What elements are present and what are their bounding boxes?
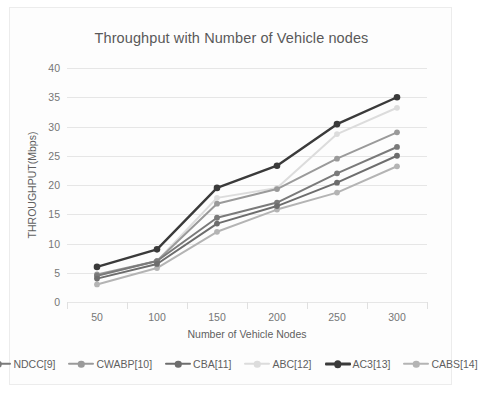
x-axis-tick-label: 100 — [148, 311, 166, 323]
legend-label: CBA[11] — [192, 358, 231, 370]
y-axis-title-label: THROUGHPUT(Mbps) — [26, 132, 38, 239]
data-point — [94, 264, 101, 271]
legend-label: NDCC[9] — [12, 358, 55, 370]
chart-title: Throughput with Number of Vehicle nodes — [10, 30, 453, 46]
data-point — [214, 215, 220, 221]
series-line — [97, 108, 397, 276]
series-lines — [67, 68, 427, 302]
legend-marker-icon — [325, 359, 351, 369]
series-cba11 — [94, 153, 400, 282]
chart-card: Throughput with Number of Vehicle nodes … — [9, 7, 452, 385]
data-point — [214, 229, 220, 235]
x-axis-tick-label: 300 — [388, 311, 406, 323]
y-axis-tick-label: 5 — [54, 267, 60, 279]
data-point — [334, 156, 340, 162]
x-axis-separator — [67, 302, 68, 309]
y-axis-tick-label: 15 — [48, 208, 60, 220]
x-axis-title: Number of Vehicle Nodes — [67, 328, 427, 340]
x-axis-separator — [307, 302, 308, 309]
legend-label: AC3[13] — [352, 358, 391, 370]
y-axis-tick-label: 0 — [54, 296, 60, 308]
data-point — [214, 221, 220, 227]
data-point — [214, 195, 220, 201]
x-axis-tick-label: 150 — [208, 311, 226, 323]
chart-legend: NDCC[9]CWABP[10]CBA[11]ABC[12]AC3[13]CAB… — [10, 358, 453, 370]
data-point — [154, 261, 160, 267]
series-ac313 — [94, 94, 401, 270]
data-point — [334, 180, 340, 186]
legend-item-ac313[interactable]: AC3[13] — [325, 358, 391, 370]
series-line — [97, 156, 397, 279]
y-axis-tick-label: 30 — [48, 121, 60, 133]
data-point — [334, 170, 340, 176]
data-point — [394, 105, 400, 111]
y-axis-tick-label: 20 — [48, 179, 60, 191]
data-point — [334, 131, 340, 137]
legend-marker-icon — [0, 359, 11, 369]
data-point — [214, 201, 220, 207]
legend-label: CWABP[10] — [95, 358, 152, 370]
data-point — [394, 144, 400, 150]
data-point — [214, 185, 221, 192]
data-point — [94, 282, 100, 288]
data-point — [394, 94, 401, 101]
data-point — [394, 163, 400, 169]
data-point — [334, 190, 340, 196]
x-axis-separator — [127, 302, 128, 309]
legend-marker-icon — [165, 359, 191, 369]
legend-label: CABS[14] — [430, 358, 477, 370]
x-axis-tick-label: 50 — [91, 311, 103, 323]
series-line — [97, 97, 397, 267]
series-ndcc9 — [94, 144, 400, 279]
legend-marker-icon — [403, 359, 429, 369]
y-axis-tick-label: 25 — [48, 150, 60, 162]
series-line — [97, 147, 397, 276]
legend-item-cba11[interactable]: CBA[11] — [165, 358, 231, 370]
data-point — [274, 162, 281, 169]
legend-item-cwabp10[interactable]: CWABP[10] — [68, 358, 152, 370]
data-point — [334, 121, 341, 128]
x-axis-separator — [427, 302, 428, 309]
data-point — [94, 276, 100, 282]
data-point — [274, 186, 280, 192]
legend-label: ABC[12] — [271, 358, 311, 370]
y-axis-tick-label: 35 — [48, 91, 60, 103]
x-axis-tick-label: 200 — [268, 311, 286, 323]
x-axis-tick-label: 250 — [328, 311, 346, 323]
legend-item-cabs14[interactable]: CABS[14] — [403, 358, 477, 370]
series-abc12 — [94, 105, 400, 279]
x-axis-separator — [247, 302, 248, 309]
y-axis-tick-label: 10 — [48, 238, 60, 250]
y-axis-tick-label: 40 — [48, 62, 60, 74]
data-point — [394, 129, 400, 135]
x-axis-separator — [187, 302, 188, 309]
data-point — [394, 153, 400, 159]
legend-item-abc12[interactable]: ABC[12] — [244, 358, 311, 370]
x-axis-separator — [367, 302, 368, 309]
legend-item-ndcc9[interactable]: NDCC[9] — [0, 358, 55, 370]
legend-marker-icon — [244, 359, 270, 369]
legend-marker-icon — [68, 359, 94, 369]
plot-area: 0510152025303540 50100150200250300 — [67, 68, 427, 302]
y-axis-title: THROUGHPUT(Mbps) — [24, 68, 40, 302]
data-point — [154, 246, 161, 253]
data-point — [274, 203, 280, 209]
